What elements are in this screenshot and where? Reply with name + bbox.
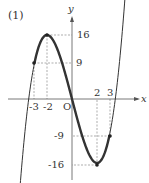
x-tick--2: -2: [43, 102, 53, 112]
y-tick-16: 16: [77, 30, 90, 40]
y-tick--16: -16: [48, 160, 64, 170]
x-tick-3: 3: [107, 88, 113, 98]
origin-label: O: [63, 102, 71, 112]
x-axis-arrow-icon: [134, 97, 140, 101]
y-tick-9: 9: [76, 58, 82, 68]
x-axis-label: x: [141, 94, 147, 104]
y-axis-arrow-icon: [70, 16, 74, 22]
cubic-graph: [0, 0, 149, 183]
x-tick-2: 2: [94, 88, 100, 98]
y-tick--9: -9: [54, 131, 64, 141]
y-axis-label: y: [68, 4, 74, 14]
x-tick--3: -3: [29, 102, 39, 112]
